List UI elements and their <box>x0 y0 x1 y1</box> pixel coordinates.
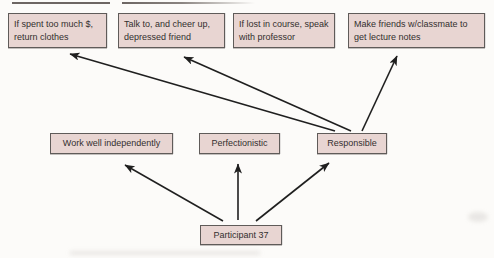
trait-node-responsible: Responsible <box>317 133 387 154</box>
behavior-node-return-clothes: If spent too much $, return clothes <box>8 13 107 48</box>
arrow-participant-to-work-well <box>125 165 223 221</box>
trait-node-perfectionistic: Perfectionistic <box>199 133 280 154</box>
concept-map-figure: If spent too much $, return clothes Talk… <box>0 0 494 258</box>
arrow-participant-to-responsible <box>256 163 329 221</box>
participant-node: Participant 37 <box>200 225 282 245</box>
behavior-node-lecture-notes: Make friends w/classmate to get lecture … <box>348 13 485 48</box>
arrow-responsible-to-lecture-notes <box>362 56 397 131</box>
behavior-node-speak-with-professor: If lost in course, speak with professor <box>233 13 335 48</box>
trait-node-work-well-independently: Work well independently <box>50 133 173 154</box>
behavior-node-cheer-up-friend: Talk to, and cheer up, depressed friend <box>118 13 225 48</box>
